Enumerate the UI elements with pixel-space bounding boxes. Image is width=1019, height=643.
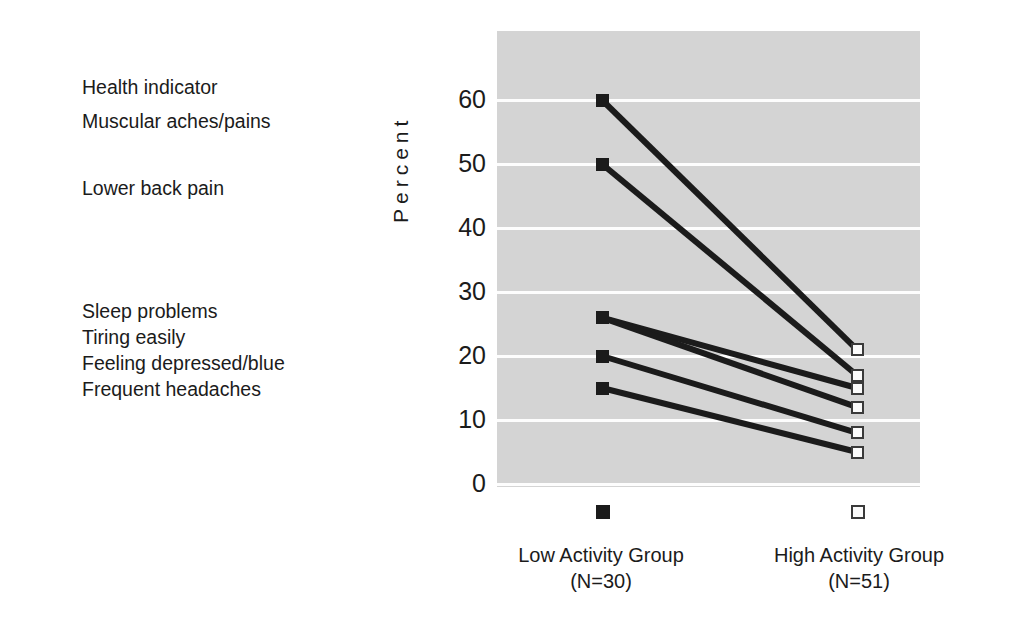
x-axis-label-low-activity: Low Activity Group (N=30) bbox=[470, 542, 732, 594]
data-point-high-activity bbox=[851, 446, 864, 459]
legend bbox=[0, 505, 1019, 527]
y-axis-tick: 0 bbox=[426, 471, 486, 496]
group-n-low: (N=30) bbox=[470, 568, 732, 594]
y-axis-tick: 60 bbox=[426, 87, 486, 112]
x-axis-label-high-activity: High Activity Group (N=51) bbox=[728, 542, 990, 594]
data-point-high-activity bbox=[851, 343, 864, 356]
y-axis-tick: 40 bbox=[426, 215, 486, 240]
data-point-high-activity bbox=[851, 426, 864, 439]
y-axis-tick: 20 bbox=[426, 343, 486, 368]
group-name-low: Low Activity Group bbox=[518, 544, 684, 566]
figure-root: Health indicatorMuscular aches/painsLowe… bbox=[0, 0, 1019, 643]
data-point-low-activity bbox=[596, 311, 609, 324]
data-point-low-activity bbox=[596, 382, 609, 395]
line-chart: Percent 6050403020100 Low Activity Group… bbox=[0, 0, 1019, 643]
group-name-high: High Activity Group bbox=[774, 544, 944, 566]
group-n-high: (N=51) bbox=[728, 568, 990, 594]
series-lines bbox=[497, 31, 920, 487]
data-point-low-activity bbox=[596, 94, 609, 107]
plot-area bbox=[497, 31, 920, 487]
y-axis-tick: 10 bbox=[426, 407, 486, 432]
data-point-high-activity bbox=[851, 369, 864, 382]
series-line bbox=[602, 100, 857, 350]
data-point-high-activity bbox=[851, 382, 864, 395]
legend-marker-low-activity bbox=[596, 505, 610, 519]
y-axis-tick: 50 bbox=[426, 151, 486, 176]
data-point-low-activity bbox=[596, 158, 609, 171]
data-point-high-activity bbox=[851, 401, 864, 414]
legend-marker-high-activity bbox=[851, 505, 865, 519]
y-axis-tick: 30 bbox=[426, 279, 486, 304]
data-point-low-activity bbox=[596, 350, 609, 363]
series-line bbox=[602, 164, 857, 375]
y-axis-title: Percent bbox=[389, 193, 413, 223]
